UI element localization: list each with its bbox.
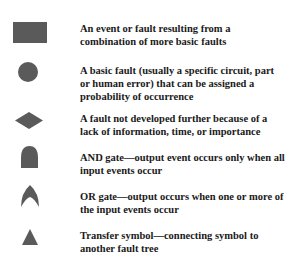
event-description: An event or fault resulting from a combi… (80, 22, 285, 48)
basic-fault-description: A basic fault (usually a specific circui… (80, 64, 285, 103)
and-gate-icon (21, 146, 39, 169)
diamond-undeveloped-fault-icon (15, 112, 45, 130)
undeveloped-fault-description: A fault not developed further because of… (80, 112, 285, 138)
rectangle-event-icon (13, 22, 48, 44)
triangle-transfer-icon (22, 229, 39, 246)
fault-tree-symbol-legend: An event or fault resulting from a combi… (0, 0, 285, 267)
transfer-description: Transfer symbol—connecting symbol to ano… (80, 229, 285, 255)
circle-basic-fault-icon (17, 61, 39, 83)
and-gate-description: AND gate—output event occurs only when a… (80, 151, 285, 177)
or-gate-icon (21, 185, 40, 208)
or-gate-description: OR gate—output occurs when one or more o… (80, 190, 285, 216)
